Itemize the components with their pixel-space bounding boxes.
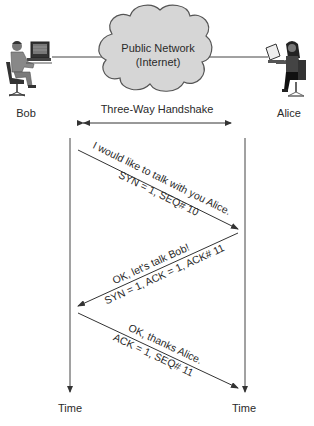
bob-time-label: Time: [58, 402, 82, 414]
handshake-title: Three-Way Handshake: [101, 103, 214, 115]
network-label-line1: Public Network: [121, 42, 195, 54]
bob-label: Bob: [16, 107, 36, 119]
handshake-diagram: Public Network (Internet) Bob: [0, 0, 314, 426]
alice-person-icon: [266, 41, 306, 96]
alice-label: Alice: [277, 107, 301, 119]
message-1-text: I would like to talk with you Alice.: [91, 139, 233, 217]
alice-time-label: Time: [232, 402, 256, 414]
network-label-line2: (Internet): [136, 56, 181, 68]
bob-person-icon: [6, 41, 52, 96]
handshake-arrowhead-left: [83, 120, 90, 126]
